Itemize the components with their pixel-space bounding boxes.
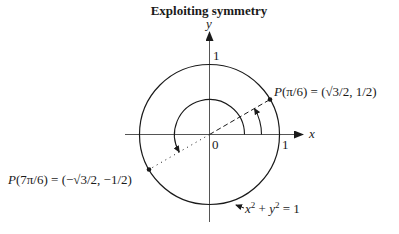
x-axis-label: x [308,126,315,141]
point-p-7pi-over-6 [147,167,152,172]
origin-label: 0 [212,137,219,152]
unit-circle-diagram: Exploiting symmetry x y 0 1 1 P(π/6) = (… [0,0,399,234]
y-axis-label: y [204,16,212,31]
equation-pointer-arrow [236,205,244,208]
y-tick-label: 1 [213,48,220,63]
arc-pi-over-6 [255,109,262,135]
label-p-7pi-over-6: P(7π/6) = (−√3/2, −1/2) [7,172,132,187]
circle-equation: x2 + y2 = 1 [244,200,300,216]
label-p-pi-over-6: P(π/6) = (√3/2, 1/2) [273,84,377,99]
x-tick-label: 1 [282,137,289,152]
point-p-pi-over-6 [268,97,273,102]
radius-7pi-over-6 [149,135,210,170]
